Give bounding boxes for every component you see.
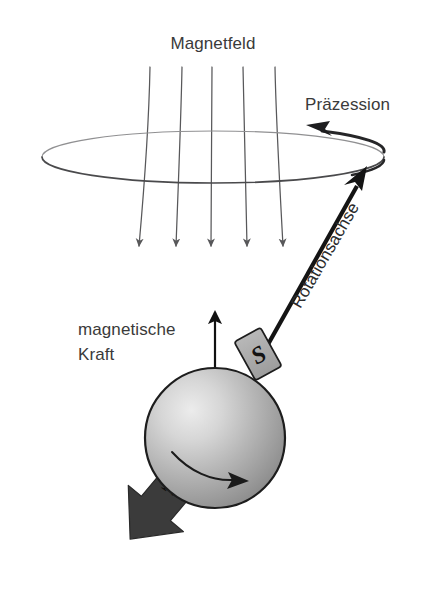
- diagram-canvas: Magnetfeld Präzession Rot: [0, 0, 430, 599]
- magnetic-force-label-line1: magnetische: [78, 320, 176, 339]
- magnetic-force-label-line2: Kraft: [78, 345, 115, 364]
- spinning-sphere: [145, 368, 285, 508]
- background: [0, 0, 430, 599]
- magnetic-field-label: Magnetfeld: [170, 34, 255, 53]
- precession-diagram-svg: Magnetfeld Präzession Rot: [0, 0, 430, 599]
- precession-label: Präzession: [305, 95, 390, 114]
